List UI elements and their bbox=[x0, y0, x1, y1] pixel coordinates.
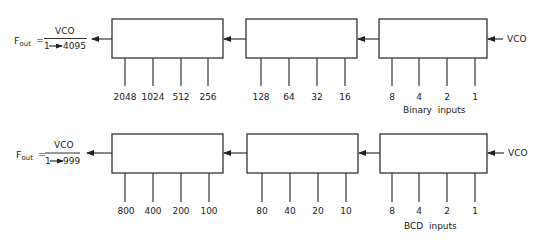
binary-inputs-caption: Binary inputs bbox=[403, 105, 466, 115]
input-weight: 2 bbox=[444, 206, 450, 216]
input-weight: 1 bbox=[472, 206, 478, 216]
input-weight: 100 bbox=[200, 206, 217, 216]
input-weight: 2 bbox=[444, 92, 450, 102]
input-weight: 800 bbox=[117, 206, 134, 216]
bcd-output-formula: Fout = VCO 1 999 bbox=[16, 140, 80, 166]
input-weight: 200 bbox=[172, 206, 189, 216]
input-weight: 16 bbox=[339, 92, 351, 102]
input-weight: 1024 bbox=[142, 92, 165, 102]
fout-label: Fout bbox=[14, 35, 31, 48]
binary-divider-row: Fout = VCO 1 4095 2048 1024 512 256 128 … bbox=[14, 19, 527, 115]
input-weight: 4 bbox=[416, 92, 422, 102]
input-weight: 8 bbox=[389, 206, 395, 216]
range-end: 999 bbox=[63, 156, 80, 166]
counter-stage-msb bbox=[112, 19, 223, 58]
vco-input-label: VCO bbox=[507, 34, 527, 44]
vco-input-label: VCO bbox=[508, 148, 528, 158]
input-weight: 32 bbox=[311, 92, 322, 102]
input-weight: 256 bbox=[199, 92, 216, 102]
input-weight: 10 bbox=[340, 206, 352, 216]
input-weight: 1 bbox=[472, 92, 478, 102]
counter-stage-tens bbox=[247, 134, 358, 173]
range-start: 1 bbox=[45, 156, 51, 166]
input-weight: 40 bbox=[284, 206, 296, 216]
divider-chain-diagram: Fout = VCO 1 4095 2048 1024 512 256 128 … bbox=[0, 0, 541, 240]
formula-numerator: VCO bbox=[54, 140, 74, 150]
counter-stage-units bbox=[380, 134, 487, 173]
input-weight: 64 bbox=[283, 92, 295, 102]
counter-stage-hundreds bbox=[112, 134, 223, 173]
input-weight: 128 bbox=[252, 92, 269, 102]
input-weight: 400 bbox=[144, 206, 161, 216]
counter-stage-lsb bbox=[379, 19, 487, 58]
bcd-divider-row: Fout = VCO 1 999 800 400 200 100 80 40 2… bbox=[16, 134, 528, 231]
formula-numerator: VCO bbox=[55, 26, 75, 36]
range-end: 4095 bbox=[63, 41, 86, 51]
range-start: 1 bbox=[44, 41, 50, 51]
input-weight: 512 bbox=[172, 92, 189, 102]
input-weight: 4 bbox=[416, 206, 422, 216]
binary-output-formula: Fout = VCO 1 4095 bbox=[14, 26, 87, 51]
input-weight: 2048 bbox=[114, 92, 137, 102]
counter-stage-mid bbox=[246, 19, 357, 58]
input-weight: 20 bbox=[312, 206, 324, 216]
input-weight: 80 bbox=[256, 206, 268, 216]
fout-label: Fout bbox=[16, 149, 33, 162]
input-weight: 8 bbox=[389, 92, 395, 102]
equals-sign: = bbox=[36, 34, 44, 45]
bcd-inputs-caption: BCD inputs bbox=[404, 221, 457, 231]
